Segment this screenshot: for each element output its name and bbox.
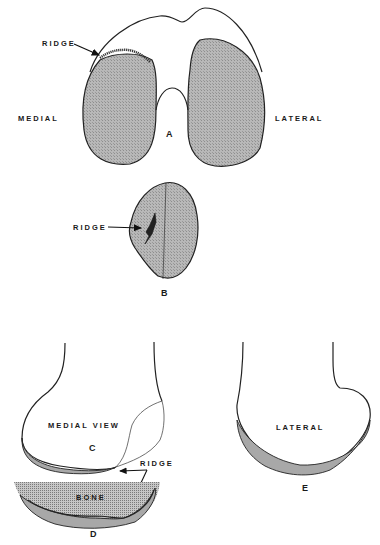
medial-condyle [83, 54, 156, 164]
medial-label: MEDIAL [18, 114, 59, 123]
panel-letter-a: A [166, 129, 173, 139]
panel-letter-d: D [90, 529, 97, 539]
anatomy-figure: RIDGE MEDIAL LATERAL A RIDGE B MEDIAL VI… [0, 0, 380, 545]
medial-view-outline [22, 343, 115, 469]
ridge-label-a: RIDGE [42, 39, 76, 48]
panel-b: RIDGE B [73, 183, 198, 298]
panel-a: RIDGE MEDIAL LATERAL A [18, 8, 323, 166]
panel-d: BONE D [14, 482, 160, 539]
panel-e: LATERAL E [237, 342, 370, 493]
lateral-view-label: LATERAL [276, 423, 324, 432]
ridge-label-b: RIDGE [73, 223, 107, 232]
panel-letter-c: C [89, 443, 96, 453]
lateral-condyle [188, 39, 265, 166]
bone-label: BONE [76, 493, 106, 502]
panel-letter-e: E [302, 483, 308, 493]
intercondylar-notch [156, 88, 188, 110]
medial-view-label: MEDIAL VIEW [48, 421, 120, 430]
intercondylar-loop [116, 401, 164, 467]
ridge-arrow-a [74, 44, 99, 55]
lateral-label: LATERAL [275, 114, 323, 123]
panel-letter-b: B [161, 288, 168, 298]
medial-view-posterior [154, 342, 162, 401]
ridge-label-c: RIDGE [140, 459, 174, 468]
ridge-arrow-c [120, 470, 147, 471]
medial-cartilage-band [22, 438, 116, 474]
